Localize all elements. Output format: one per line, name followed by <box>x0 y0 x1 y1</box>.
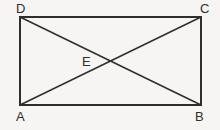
vertex-label-b: B <box>195 110 204 123</box>
rectangle-diagram-svg <box>0 0 220 130</box>
geometry-figure: D C A B E <box>0 0 220 130</box>
vertex-label-a: A <box>16 110 25 123</box>
vertex-label-e: E <box>82 55 91 68</box>
vertex-label-d: D <box>16 2 26 15</box>
vertex-label-c: C <box>200 2 210 15</box>
